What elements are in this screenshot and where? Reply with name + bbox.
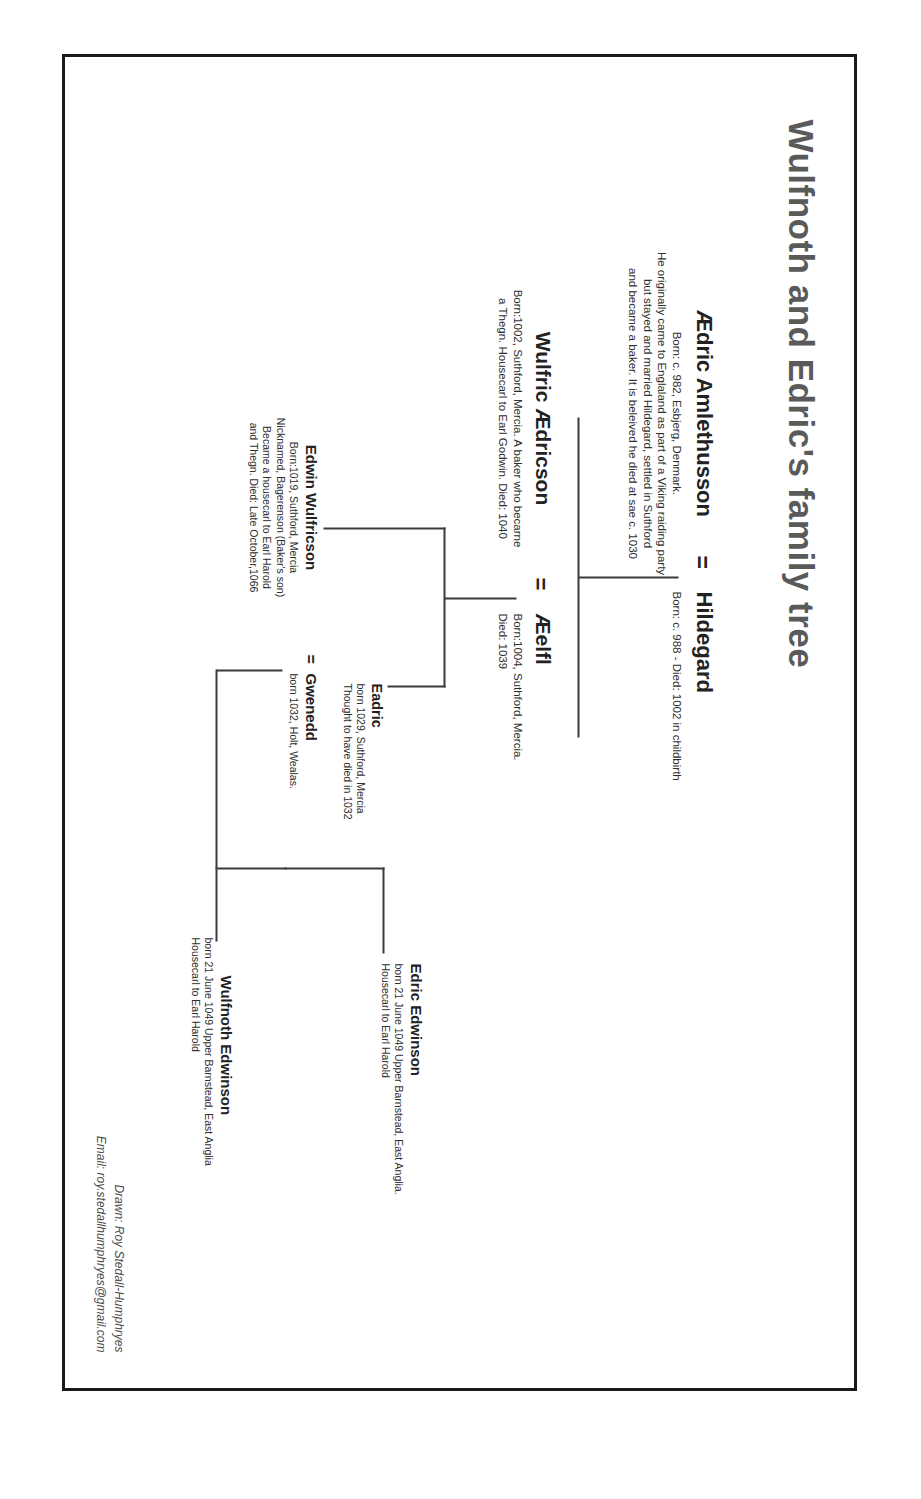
marriage-symbol-gen1: = [687,555,714,568]
connector-gen3-left-branch [215,867,286,869]
connector-gen2-drop [444,597,516,599]
person-name: Æelfl [530,613,554,873]
detail-line: Born:1002, Suthford, Mercia. A baker who… [509,253,524,583]
connector-gen4-wulfnoth-stub [215,869,217,941]
credits-block: Drawn: Roy Stedall-Humphryes Email: roy.… [91,1135,126,1352]
detail-line: Born:1004, Suthford, Mercia. [509,613,524,873]
person-details: born 1029, Suthford, Mercia Thought to h… [339,683,366,913]
detail-line: Died: 1039 [495,613,510,873]
detail-line: born 1032, Holt, Wealas. [286,673,299,893]
detail-line: He originally came to Englaland as part … [654,243,669,583]
person-name: Edric Edwinson [407,963,424,1283]
connector-gen2-right-branch [387,685,445,687]
family-tree-sheet: Wulfnoth and Edric's family tree Ædric A… [65,57,854,1388]
connector-gen3-bus [215,669,217,869]
scanned-page-frame: Wulfnoth and Edric's family tree Ædric A… [62,54,857,1391]
person-node-eadric: Eadric born 1029, Suthford, Mercia Thoug… [339,683,384,913]
person-details: Born: c. 988 - Died: 1002 in childbirth [668,591,683,891]
detail-line: Housecarl to Earl Harold [187,937,200,1297]
rotated-chart-container: Wulfnoth and Edric's family tree Ædric A… [65,57,854,1388]
detail-line: Born:1019, Suthford, Mercia [286,357,299,657]
page-title: Wulfnoth and Edric's family tree [780,119,820,668]
credit-drawn-by: Drawn: Roy Stedall-Humphryes [108,1135,125,1352]
person-details: Born:1019, Suthford, Mercia Nicknamed, B… [245,357,299,657]
detail-line: born 21 June 1049 Upper Barnstead, East … [201,937,214,1297]
person-node-hildegard: Hildegard Born: c. 988 - Died: 1002 in c… [668,591,716,891]
person-name: Ædric Amlethusson [690,243,716,583]
connector-gen4-riser [284,867,384,869]
detail-line: Thought to have died in 1032 [339,683,352,913]
person-node-aedric-amlethusson: Ædric Amlethusson Born: c. 982, Esbjerg,… [624,243,716,583]
person-node-edwin-wulfricson: Edwin Wulfricson Born:1019, Suthford, Me… [245,357,319,657]
person-name: Hildegard [690,591,716,891]
detail-line: born 21 June 1049 Upper Barnstead, East … [391,963,404,1283]
detail-line: born 1029, Suthford, Mercia [353,683,366,913]
person-name: Gwenedd [302,673,319,893]
detail-line: and Thegn. Died: Late October,1066 [245,357,258,657]
person-name: Edwin Wulfricson [302,357,319,657]
detail-line: and became a baker. It is beleived he di… [624,243,639,583]
credit-email: Email: roy.stedallhumphryes@gmail.com [91,1135,108,1352]
person-name: Wulfric Ædricson [530,253,554,583]
person-node-aelfl: Æelfl Born:1004, Suthford, Mercia. Died:… [495,613,554,873]
person-details: Born:1002, Suthford, Mercia. A baker who… [495,253,524,583]
connector-gen1-bus [577,417,579,737]
connector-gen2-bus [443,527,445,687]
person-node-gwenedd: Gwenedd born 1032, Holt, Wealas. [286,673,319,893]
detail-line: Born: c. 982, Esbjerg, Denmark. [668,243,683,583]
person-node-wulfnoth-edwinson: Wulfnoth Edwinson born 21 June 1049 Uppe… [187,937,234,1297]
detail-line: but stayed and married Hildegard, settle… [639,243,654,583]
marriage-symbol-gen3: = [300,654,318,663]
connector-gen4-edric-stub [382,867,384,953]
detail-line: Became a housecarl to Earl Harold [259,357,272,657]
detail-line: a Thegn. Housecarl to Earl Godwin. Died:… [495,253,510,583]
person-node-edric-edwinson: Edric Edwinson born 21 June 1049 Upper B… [377,963,424,1283]
person-details: born 1032, Holt, Wealas. [286,673,299,893]
detail-line: Born: c. 988 - Died: 1002 in childbirth [668,591,683,891]
person-name: Wulfnoth Edwinson [217,975,234,1297]
person-details: born 21 June 1049 Upper Barnstead, East … [377,963,404,1283]
detail-line: Nicknamed, Bagerenson (Baker's son) [272,357,285,657]
person-node-wulfric-aedricson: Wulfric Ædricson Born:1002, Suthford, Me… [495,253,554,583]
detail-line: Housecarl to Earl Harold [377,963,390,1283]
connector-gen2-left-branch [323,527,445,529]
person-details: Born:1004, Suthford, Mercia. Died: 1039 [495,613,524,873]
person-details: born 21 June 1049 Upper Barnstead, East … [187,937,214,1297]
marriage-symbol-gen2: = [526,577,552,590]
person-details: Born: c. 982, Esbjerg, Denmark. He origi… [624,243,683,583]
connector-gen1-drop [578,576,678,578]
connector-gen3-drop [216,669,282,671]
